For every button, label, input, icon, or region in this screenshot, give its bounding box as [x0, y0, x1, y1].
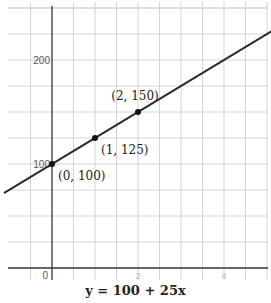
- x-tick-label: 2: [135, 271, 140, 281]
- data-point: [49, 161, 55, 167]
- grid-lines: [8, 2, 268, 280]
- data-point: [92, 135, 98, 141]
- x-tick-label: 4: [221, 271, 226, 281]
- y-tick-label: 100: [33, 159, 50, 170]
- point-label: (1, 125): [101, 143, 149, 157]
- data-point: [135, 109, 141, 115]
- x-tick-label: 0: [42, 270, 48, 281]
- labeled-points: (0, 100)(1, 125)(2, 150): [49, 89, 159, 183]
- point-label: (0, 100): [58, 169, 106, 183]
- line-chart: 100200024 (0, 100)(1, 125)(2, 150): [0, 0, 271, 303]
- point-label: (2, 150): [111, 89, 159, 103]
- equation-caption: y = 100 + 25x: [0, 283, 271, 298]
- y-tick-label: 200: [33, 55, 50, 66]
